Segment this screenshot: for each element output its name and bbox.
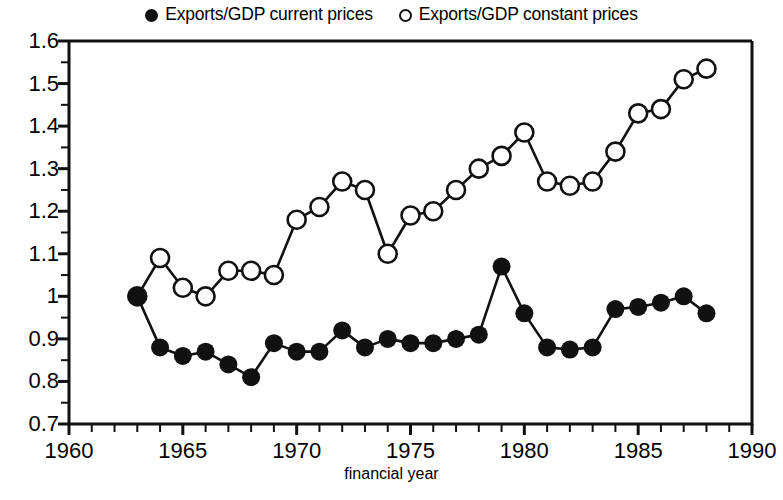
x-axis-label: financial year (0, 466, 783, 482)
series-constant-prices (128, 60, 715, 306)
y-tick-label: 1 (9, 285, 59, 307)
x-tick-label: 1980 (484, 440, 564, 462)
y-tick-label: 1.1 (9, 243, 59, 265)
y-tick-label: 1.6 (9, 30, 59, 52)
x-tick-label: 1990 (712, 440, 783, 462)
y-tick-label: 0.7 (9, 413, 59, 435)
x-axis-ticks (69, 424, 752, 435)
chart-figure: Exports/GDP current prices Exports/GDP c… (0, 0, 783, 500)
plot-area (0, 0, 783, 500)
y-tick-label: 1.3 (9, 158, 59, 180)
y-tick-label: 1.5 (9, 73, 59, 95)
x-tick-label: 1965 (143, 440, 223, 462)
y-tick-label: 1.2 (9, 200, 59, 222)
y-tick-label: 0.8 (9, 370, 59, 392)
axis-lines (69, 41, 752, 424)
series-current-prices (128, 258, 715, 387)
y-axis-ticks (58, 41, 69, 424)
y-tick-label: 1.4 (9, 115, 59, 137)
x-tick-label: 1970 (257, 440, 337, 462)
x-tick-label: 1985 (598, 440, 678, 462)
x-tick-label: 1960 (29, 440, 109, 462)
x-tick-label: 1975 (371, 440, 451, 462)
y-tick-label: 0.9 (9, 328, 59, 350)
